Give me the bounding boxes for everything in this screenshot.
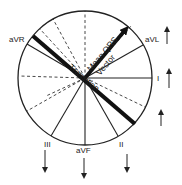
lead-labels: aVRaVLIIIIaVFII [9, 35, 160, 155]
hexaxial-diagram: Mean QRS Vector Transition aVRaVLIIIIaVF… [0, 0, 182, 185]
lead-axes [27, 44, 152, 145]
diagram-canvas: Mean QRS Vector Transition aVRaVLIIIIaVF… [0, 0, 182, 185]
lead-label-iii: III [44, 140, 51, 149]
axis-iii [51, 78, 85, 136]
lead-label-avf: aVF [76, 146, 91, 155]
dashed-axis [27, 78, 85, 111]
lead-label-avr: aVR [9, 35, 25, 44]
lead-label-ii: II [119, 140, 123, 149]
lead-label-avl: aVL [145, 35, 160, 44]
intermediate-dashed-axes [19, 11, 145, 111]
lead-label-i: I [157, 74, 159, 83]
